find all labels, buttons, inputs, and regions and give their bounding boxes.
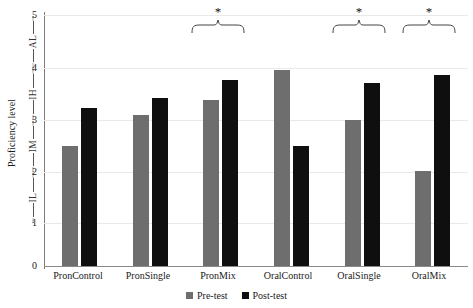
y-tick-2: 2 <box>32 167 37 177</box>
y-tick-4: 4 <box>32 63 37 73</box>
x-axis-line <box>44 266 468 267</box>
plot-area: 5 4 3 2 1 0 <box>44 15 468 266</box>
legend-label-post: Post-test <box>253 290 287 301</box>
legend-item-pre-test: Pre-test <box>186 290 228 301</box>
y-axis-title: Proficiency level <box>6 33 17 233</box>
band-stem <box>33 21 34 34</box>
y-axis-title-container: Proficiency level <box>9 0 23 266</box>
band-stem <box>33 126 34 139</box>
asterisk-icon: * <box>190 6 246 17</box>
bars-layer <box>44 15 468 266</box>
bar-pronmix-pre-test <box>203 100 219 266</box>
significance-marker-oralsingle: * <box>331 6 387 34</box>
band-marker-al: ↑ AL ↓ <box>26 15 40 68</box>
significance-marker-pronmix: * <box>190 6 246 34</box>
bar-proncontrol-post-test <box>81 108 97 266</box>
band-label-il: IL <box>28 193 38 203</box>
x-label-oralcontrol: OralControl <box>264 270 312 281</box>
band-label-al: AL <box>28 35 38 48</box>
bar-oralmix-pre-test <box>415 171 431 266</box>
curly-brace-icon <box>331 18 387 34</box>
x-label-oralmix: OralMix <box>412 270 446 281</box>
bar-proncontrol-pre-test <box>62 146 78 266</box>
x-label-oralsingle: OralSingle <box>337 270 380 281</box>
curly-brace-icon <box>190 18 246 34</box>
band-stem <box>33 178 34 192</box>
bar-pronsingle-post-test <box>152 98 168 266</box>
legend-swatch-pre-icon <box>186 292 193 299</box>
legend-swatch-post-icon <box>242 292 249 299</box>
x-label-pronmix: PronMix <box>200 270 236 281</box>
band-marker-il: ↑ IL ↓ <box>26 172 40 223</box>
x-label-proncontrol: PronControl <box>53 270 102 281</box>
band-label-ih: IH <box>28 89 38 100</box>
y-tick-3: 3 <box>32 115 37 125</box>
asterisk-icon: * <box>331 6 387 17</box>
bar-oralcontrol-pre-test <box>274 70 290 266</box>
bar-oralcontrol-post-test <box>293 146 309 266</box>
y-tick-1: 1 <box>32 218 37 228</box>
significance-marker-oralmix: * <box>401 6 457 34</box>
band-label-im: IM <box>28 140 38 152</box>
y-tick-0: 0 <box>32 261 37 271</box>
band-stem <box>33 74 34 88</box>
legend-label-pre: Pre-test <box>197 290 228 301</box>
y-tick-5: 5 <box>32 10 37 20</box>
band-marker-ih: ↑ IH ↓ <box>26 68 40 120</box>
asterisk-icon: * <box>401 6 457 17</box>
bar-pronsingle-pre-test <box>133 115 149 266</box>
band-marker-im: ↑ IM ↓ <box>26 120 40 172</box>
legend-item-post-test: Post-test <box>242 290 287 301</box>
bar-oralsingle-pre-test <box>345 120 361 266</box>
bar-oralsingle-post-test <box>364 83 380 266</box>
curly-brace-icon <box>401 18 457 34</box>
bar-pronmix-post-test <box>222 80 238 266</box>
bar-oralmix-post-test <box>434 75 450 266</box>
x-label-pronsingle: PronSingle <box>126 270 170 281</box>
chart-legend: Pre-test Post-test <box>0 290 473 301</box>
proficiency-bar-chart: Proficiency level ↑ AL ↓ ↑ IH ↓ ↑ IM ↓ ↑… <box>0 0 473 308</box>
